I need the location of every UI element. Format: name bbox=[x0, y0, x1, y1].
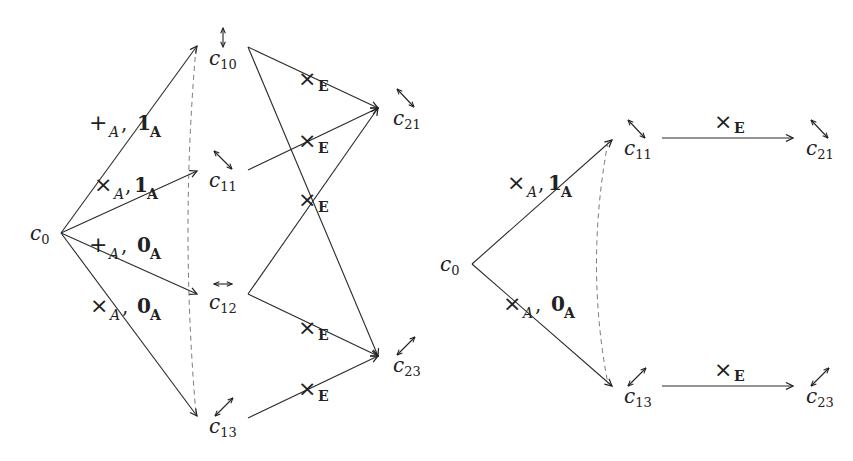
node-c11: c11 bbox=[209, 151, 237, 194]
node-c10: c10 bbox=[209, 28, 237, 72]
svg-text:E: E bbox=[734, 120, 745, 136]
svg-text:,: , bbox=[125, 173, 131, 197]
svg-text:×: × bbox=[714, 357, 732, 382]
svg-text:×: × bbox=[507, 170, 525, 195]
svg-text:E: E bbox=[734, 368, 745, 384]
svg-text:c21: c21 bbox=[806, 136, 834, 162]
svg-text:c23: c23 bbox=[806, 384, 834, 410]
svg-text:,: , bbox=[121, 111, 127, 135]
edge-c0-c10 bbox=[61, 46, 197, 233]
dashed-boundary bbox=[188, 48, 196, 414]
svg-text:×: × bbox=[298, 128, 316, 153]
svg-text:A: A bbox=[149, 307, 162, 323]
svg-text:A: A bbox=[525, 184, 537, 200]
svg-text:×: × bbox=[503, 291, 521, 316]
product-label-3: × E bbox=[298, 187, 329, 215]
svg-text:×: × bbox=[298, 315, 316, 340]
dashed-boundary bbox=[597, 142, 609, 384]
svg-text:E: E bbox=[318, 140, 329, 156]
node-c13: c13 bbox=[624, 368, 652, 410]
svg-text:0: 0 bbox=[137, 294, 151, 318]
svg-text:c13: c13 bbox=[209, 414, 237, 440]
node-c12: c12 bbox=[209, 284, 237, 316]
edge-c0-c11 bbox=[472, 140, 612, 264]
node-c13: c13 bbox=[209, 398, 237, 440]
edge-c0-c12 bbox=[61, 233, 197, 294]
svg-text:E: E bbox=[318, 327, 329, 343]
svg-text:1: 1 bbox=[137, 111, 151, 135]
svg-text:c10: c10 bbox=[209, 46, 237, 72]
svg-text:c13: c13 bbox=[624, 384, 652, 410]
svg-text:×: × bbox=[298, 66, 316, 91]
svg-text:E: E bbox=[318, 388, 329, 404]
svg-text:A: A bbox=[107, 124, 119, 140]
edge-c0-c13 bbox=[472, 264, 612, 386]
left-diagram: c0 + A , 1 A × A , 1 A + A , 0 A bbox=[30, 28, 421, 440]
svg-text:A: A bbox=[108, 307, 120, 323]
product-label-5: × E bbox=[298, 376, 329, 404]
svg-text:c11: c11 bbox=[209, 168, 237, 194]
svg-text:1: 1 bbox=[134, 173, 148, 197]
svg-text:A: A bbox=[149, 246, 162, 262]
product-label-2: × E bbox=[298, 128, 329, 156]
svg-text:c11: c11 bbox=[624, 136, 652, 162]
svg-text:×: × bbox=[94, 172, 112, 197]
svg-text:0: 0 bbox=[137, 233, 151, 257]
product-label-bottom: × E bbox=[714, 357, 745, 384]
node-c23: c23 bbox=[393, 337, 421, 379]
svg-text:c12: c12 bbox=[209, 290, 237, 316]
svg-text:A: A bbox=[107, 246, 119, 262]
svg-text:c21: c21 bbox=[393, 106, 421, 132]
product-label-1: × E bbox=[298, 66, 329, 94]
node-c21: c21 bbox=[393, 89, 421, 132]
svg-text:A: A bbox=[149, 124, 162, 140]
svg-text:+: + bbox=[89, 232, 107, 257]
product-label-4: × E bbox=[298, 315, 329, 343]
svg-text:×: × bbox=[90, 293, 108, 318]
svg-text:E: E bbox=[318, 199, 329, 215]
node-c21: c21 bbox=[806, 120, 834, 162]
svg-text:,: , bbox=[535, 292, 541, 316]
svg-text:×: × bbox=[298, 376, 316, 401]
svg-text:×: × bbox=[298, 187, 316, 212]
node-c23: c23 bbox=[806, 368, 834, 410]
svg-text:A: A bbox=[563, 305, 576, 321]
node-c11: c11 bbox=[624, 120, 652, 162]
svg-text:A: A bbox=[146, 186, 159, 202]
svg-text:c23: c23 bbox=[393, 353, 421, 379]
edge-label-plus-1: + A , 1 A bbox=[89, 110, 162, 140]
svg-text:E: E bbox=[318, 78, 329, 94]
right-diagram: c0 × A , 1 A × A , 0 A c11 c13 × bbox=[440, 109, 834, 410]
svg-text:0: 0 bbox=[551, 292, 565, 316]
svg-text:,: , bbox=[121, 233, 127, 257]
svg-text:×: × bbox=[714, 109, 732, 134]
node-c0: c0 bbox=[440, 252, 459, 278]
svg-text:A: A bbox=[560, 184, 573, 200]
svg-text:,: , bbox=[538, 171, 544, 195]
edge-label-times-0: × A , 0 A bbox=[90, 293, 162, 323]
edge-label-times-1: × A , 1 A bbox=[507, 170, 573, 200]
product-label-top: × E bbox=[714, 109, 745, 136]
svg-text:A: A bbox=[521, 305, 533, 321]
diagonal-nw-se-arrow-icon bbox=[397, 89, 414, 107]
svg-text:A: A bbox=[112, 186, 124, 202]
svg-text:1: 1 bbox=[548, 171, 562, 195]
edge-label-times-1: × A , 1 A bbox=[94, 172, 159, 202]
edge-c0-c13 bbox=[61, 233, 197, 416]
edge-label-plus-0: + A , 0 A bbox=[89, 232, 162, 262]
svg-text:,: , bbox=[122, 294, 128, 318]
node-c0: c0 bbox=[30, 221, 49, 247]
edge-label-times-0: × A , 0 A bbox=[503, 291, 576, 321]
diagonal-nw-se-arrow-icon bbox=[214, 151, 232, 169]
diagram-canvas: c0 + A , 1 A × A , 1 A + A , 0 A bbox=[0, 0, 853, 461]
svg-text:+: + bbox=[89, 110, 107, 135]
